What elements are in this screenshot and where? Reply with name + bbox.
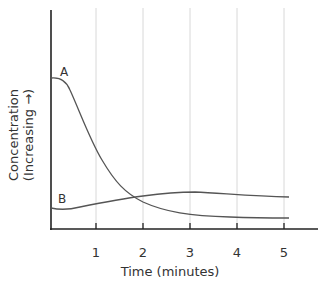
series-a-label: A [60,65,69,79]
x-axis-title: Time (minutes) [120,264,220,279]
x-tick-label-5: 5 [280,245,288,260]
x-tick-label-3: 3 [186,245,194,260]
chart: A B 1 2 3 4 5 Time (minutes) Concentrati… [0,0,323,284]
x-tick-label-1: 1 [92,245,100,260]
series-b-curve [51,192,289,209]
x-tick-label-2: 2 [139,245,147,260]
series-a-curve [51,78,289,218]
y-axis-title-line2: (Increasing →) [21,89,36,181]
x-tick-label-4: 4 [233,245,241,260]
x-ticks [96,223,284,229]
series-b-label: B [58,192,66,206]
y-axis-title-line1: Concentration [6,89,21,181]
